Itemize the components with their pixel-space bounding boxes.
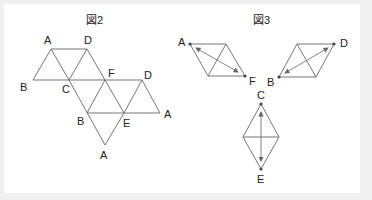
vertex-label: D bbox=[144, 70, 152, 81]
figure3-rhombus-bd bbox=[279, 44, 334, 77]
vertex-label: A bbox=[164, 109, 171, 120]
vertex-label: A bbox=[100, 150, 107, 161]
vertex-label: C bbox=[257, 90, 265, 101]
vertex-label: B bbox=[77, 116, 84, 127]
vertex-label: D bbox=[84, 35, 92, 46]
figure3-rhombus-ce bbox=[243, 104, 279, 169]
vertex-label: B bbox=[20, 82, 27, 93]
vertex-label: F bbox=[108, 68, 115, 79]
vertex-label: A bbox=[178, 37, 185, 48]
vertex-label: A bbox=[44, 35, 51, 46]
figure2-title: 図2 bbox=[86, 15, 103, 26]
vertex-label: D bbox=[340, 38, 348, 49]
vertex-label: C bbox=[62, 84, 70, 95]
figure-drawing bbox=[0, 0, 372, 200]
vertex-label: B bbox=[267, 77, 274, 88]
figure2-net bbox=[33, 49, 160, 145]
figure3-rhombus-af bbox=[190, 44, 245, 76]
vertex-label: F bbox=[249, 76, 256, 87]
figure3-title: 図3 bbox=[253, 15, 270, 26]
vertex-label: E bbox=[123, 118, 130, 129]
vertex-label: E bbox=[257, 174, 264, 185]
